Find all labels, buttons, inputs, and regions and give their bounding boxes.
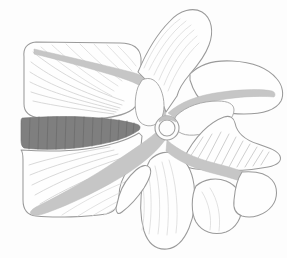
anatomical-illustration [0, 0, 287, 258]
vertebra-sagittal-diagram [0, 0, 287, 258]
pedicle-ring-inner [159, 120, 175, 136]
